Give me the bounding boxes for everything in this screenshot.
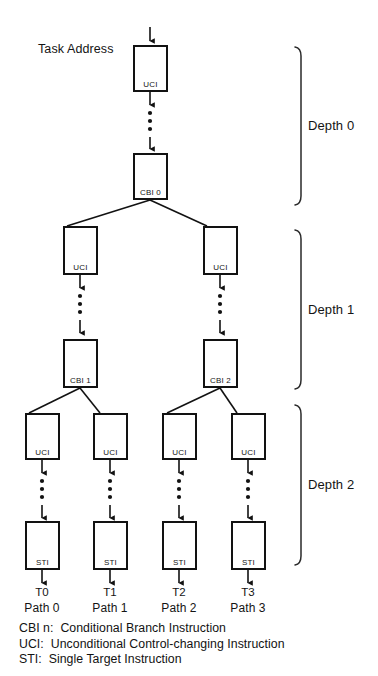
ellipsis-dot xyxy=(40,495,44,499)
node-depth2-uci-1: UCI xyxy=(93,413,128,460)
ellipsis-dot xyxy=(78,302,82,306)
node-depth1-uci-left: UCI xyxy=(63,226,98,275)
depth-2-label: Depth 2 xyxy=(308,477,354,492)
ellipsis-dot xyxy=(78,310,82,314)
node-depth2-uci-0: UCI xyxy=(25,413,60,460)
node-depth1-uci-right-label: UCI xyxy=(205,263,236,272)
node-depth2-uci-0-label: UCI xyxy=(27,448,58,457)
node-sti-0-label: STI xyxy=(27,558,58,567)
ellipsis-dot xyxy=(148,111,152,115)
node-depth2-uci-3: UCI xyxy=(231,413,266,460)
ellipsis-dot xyxy=(246,495,250,499)
node-depth1-uci-left-label: UCI xyxy=(65,263,96,272)
edge-cbi2-to-uci2 xyxy=(167,388,220,413)
path-label-1: Path 1 xyxy=(77,601,143,615)
ellipsis-dot xyxy=(218,302,222,306)
ellipsis-dot xyxy=(108,495,112,499)
depth-brackets-layer xyxy=(295,47,301,565)
node-sti-0: STI xyxy=(25,521,60,570)
terminal-target-3: T3 xyxy=(223,586,273,598)
path-label-0: Path 0 xyxy=(9,601,75,615)
depth-0-label: Depth 0 xyxy=(308,118,354,133)
diagram-canvas: UCI CBI 0 UCI UCI CBI 1 CBI 2 UCI UCI UC… xyxy=(0,0,378,676)
ellipsis-dot xyxy=(148,119,152,123)
ellipsis-dot xyxy=(108,487,112,491)
ellipsis-dot xyxy=(108,479,112,483)
task-address-label: Task Address xyxy=(38,42,114,56)
terminal-target-1: T1 xyxy=(85,586,135,598)
diagram-connectors-layer xyxy=(0,0,378,676)
ellipsis-dot xyxy=(177,495,181,499)
edge-cbi0-to-right-uci xyxy=(150,200,207,226)
node-root-uci-label: UCI xyxy=(135,80,166,89)
depth-bracket-0 xyxy=(295,47,301,205)
path-label-3: Path 3 xyxy=(215,601,281,615)
node-sti-2: STI xyxy=(162,521,197,570)
node-root-cbi: CBI 0 xyxy=(133,153,168,200)
node-depth2-uci-1-label: UCI xyxy=(95,448,126,457)
ellipsis-dot xyxy=(40,487,44,491)
ellipsis-dot xyxy=(177,479,181,483)
node-root-cbi-label: CBI 0 xyxy=(135,188,166,197)
node-depth1-cbi-right-label: CBI 2 xyxy=(205,376,236,385)
legend-line-cbi: CBI n: Conditional Branch Instruction xyxy=(19,621,285,637)
node-depth1-uci-right: UCI xyxy=(203,226,238,275)
ellipsis-dot xyxy=(246,487,250,491)
ellipsis-dot xyxy=(78,294,82,298)
terminal-target-2: T2 xyxy=(154,586,204,598)
node-depth2-uci-2: UCI xyxy=(162,413,197,460)
node-depth2-uci-2-label: UCI xyxy=(164,448,195,457)
edge-cbi2-to-uci3 xyxy=(220,388,237,413)
node-depth2-uci-3-label: UCI xyxy=(233,448,264,457)
node-sti-3: STI xyxy=(231,521,266,570)
legend-line-sti: STI: Single Target Instruction xyxy=(19,652,285,668)
ellipsis-dot xyxy=(148,127,152,131)
legend-line-uci: UCI: Unconditional Control-changing Inst… xyxy=(19,637,285,653)
depth-bracket-1 xyxy=(295,230,301,389)
path-label-2: Path 2 xyxy=(146,601,212,615)
node-depth1-cbi-left-label: CBI 1 xyxy=(65,376,96,385)
node-sti-1: STI xyxy=(93,521,128,570)
ellipsis-dot xyxy=(218,310,222,314)
ellipsis-dot xyxy=(246,479,250,483)
node-depth1-cbi-right: CBI 2 xyxy=(203,339,238,388)
node-root-uci: UCI xyxy=(133,45,168,92)
edge-cbi0-to-left-uci xyxy=(67,200,150,226)
legend: CBI n: Conditional Branch Instruction UC… xyxy=(19,621,285,668)
edge-cbi1-to-uci1 xyxy=(80,388,100,413)
node-depth1-cbi-left: CBI 1 xyxy=(63,339,98,388)
terminal-target-0: T0 xyxy=(17,586,67,598)
depth-bracket-2 xyxy=(295,405,301,565)
ellipsis-dot xyxy=(218,294,222,298)
ellipsis-dot xyxy=(40,479,44,483)
node-sti-1-label: STI xyxy=(95,558,126,567)
depth-1-label: Depth 1 xyxy=(308,302,354,317)
node-sti-3-label: STI xyxy=(233,558,264,567)
ellipsis-dot xyxy=(177,487,181,491)
edge-cbi1-to-uci0 xyxy=(29,388,80,413)
node-sti-2-label: STI xyxy=(164,558,195,567)
